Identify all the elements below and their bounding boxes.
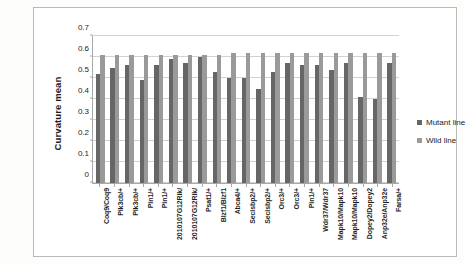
legend-item-label: Wild line [426,136,456,145]
bar-wild[interactable] [202,55,206,183]
x-axis-label-cell: Pin1/+ [297,188,312,256]
x-axis-tick-mark [92,184,107,187]
x-axis-tick-mark [238,184,253,187]
chart-legend: Mutant lineWild line [417,118,470,154]
bar-group [297,36,312,183]
x-axis-tick-mark [355,184,370,187]
bar-wild[interactable] [334,53,338,183]
x-axis-label-cell: Orc3/+ [282,188,297,256]
x-axis-label-cell: Blzf1/Blzf1 [209,188,224,256]
bar-wild[interactable] [290,53,294,183]
x-axis-label-cell: Mapk10/Mapk10 [326,188,341,256]
x-axis-tick-mark [385,184,400,187]
x-axis-label-cell: Pin1/+ [136,188,151,256]
bar-group [195,36,210,183]
x-axis-label-cell: Wdr37/Wdr37 [311,188,326,256]
bar-group [385,36,400,183]
x-axis-tick-mark [253,184,268,187]
bar-wild[interactable] [188,55,192,183]
bar-wild[interactable] [304,53,308,183]
x-axis-label-cell: 2010107G12Rik/ [165,188,180,256]
x-axis-label-cell: Secisbp2/+ [253,188,268,256]
x-axis-tick-mark [268,184,283,187]
bar-group [283,36,298,183]
square-marker-icon [417,120,422,125]
y-axis-tick-label: 0.6 [78,44,89,53]
plot-area: 00.10.20.30.40.50.60.7 [92,36,399,184]
x-axis-label-cell: 2010107G12Rik/ [180,188,195,256]
bar-wild[interactable] [275,53,279,183]
x-axis-tick-mark [194,184,209,187]
bar-group [108,36,123,183]
bar-group [370,36,385,183]
y-axis-tick-label: 0.2 [78,128,89,137]
x-axis-label-cell: Secisbp2/+ [238,188,253,256]
bar-group [224,36,239,183]
bar-wild[interactable] [129,55,133,183]
figure-frame: Curvature mean 00.10.20.30.40.50.60.7 Co… [33,7,457,257]
bar-wild[interactable] [246,53,250,183]
legend-item-label: Mutant line [426,118,465,127]
y-axis-tick-label: 0.7 [78,23,89,32]
bar-group [312,36,327,183]
x-axis-tick-mark [282,184,297,187]
bar-wild[interactable] [231,53,235,183]
x-axis-tick-mark [136,184,151,187]
x-axis-tick-mark [121,184,136,187]
x-axis-label-cell: Anp32e/Anp32e [370,188,385,256]
legend-item[interactable]: Wild line [417,136,470,145]
bar-wild[interactable] [377,53,381,183]
x-axis-label-cell: Abca4/+ [224,188,239,256]
legend-item[interactable]: Mutant line [417,118,470,127]
x-axis-tick-mark [165,184,180,187]
bar-wild[interactable] [217,55,221,183]
x-axis-tick-mark [341,184,356,187]
x-axis-tick-mark [180,184,195,187]
bar-wild[interactable] [100,55,104,183]
x-axis-label-cell: Farsa/+ [385,188,400,256]
bar-wild[interactable] [319,53,323,183]
x-axis-tick-marks [92,184,399,187]
bar-group [93,36,108,183]
bar-group [253,36,268,183]
x-axis-label-cell: Mapk10/Mapk10 [341,188,356,256]
y-axis-tick-label: 0.5 [78,65,89,74]
x-axis-tick-mark [209,184,224,187]
bar-wild[interactable] [261,53,265,183]
bar-group [151,36,166,183]
x-axis-tick-labels: Coq9/Coq9Pik3cb/+Pik3cb/+Pin1/+Pin1/+201… [92,188,399,256]
bar-group [268,36,283,183]
x-axis-tick-label: Farsa/+ [395,188,402,212]
bar-wild[interactable] [159,55,163,183]
bar-wild[interactable] [173,55,177,183]
x-axis-tick-mark [370,184,385,187]
y-axis-tick-label: 0.3 [78,107,89,116]
x-axis-label-cell: Coq9/Coq9 [92,188,107,256]
square-marker-icon [417,138,422,143]
x-axis-label-cell: Orc3/+ [268,188,283,256]
bar-group [326,36,341,183]
y-axis-tick-label: 0.4 [78,86,89,95]
x-axis-label-cell: Dopey2/Dopey2 [355,188,370,256]
x-axis-label-cell: Pin1/+ [151,188,166,256]
bar-series-container [93,36,399,183]
y-axis-tick-label: 0 [85,170,89,179]
x-axis-label-cell: Pik3cb/+ [107,188,122,256]
bar-wild[interactable] [363,53,367,183]
bar-wild[interactable] [144,55,148,183]
bar-wild[interactable] [115,55,119,183]
x-axis-tick-mark [151,184,166,187]
x-axis-tick-mark [224,184,239,187]
y-axis-title: Curvature mean [52,54,63,174]
bar-group [239,36,254,183]
bar-group [180,36,195,183]
x-axis-tick-mark [297,184,312,187]
bar-group [355,36,370,183]
x-axis-label-cell: Psat1/+ [194,188,209,256]
bar-wild[interactable] [348,53,352,183]
x-axis-tick-mark [311,184,326,187]
x-axis-tick-mark [107,184,122,187]
bar-group [137,36,152,183]
bar-wild[interactable] [392,53,396,183]
